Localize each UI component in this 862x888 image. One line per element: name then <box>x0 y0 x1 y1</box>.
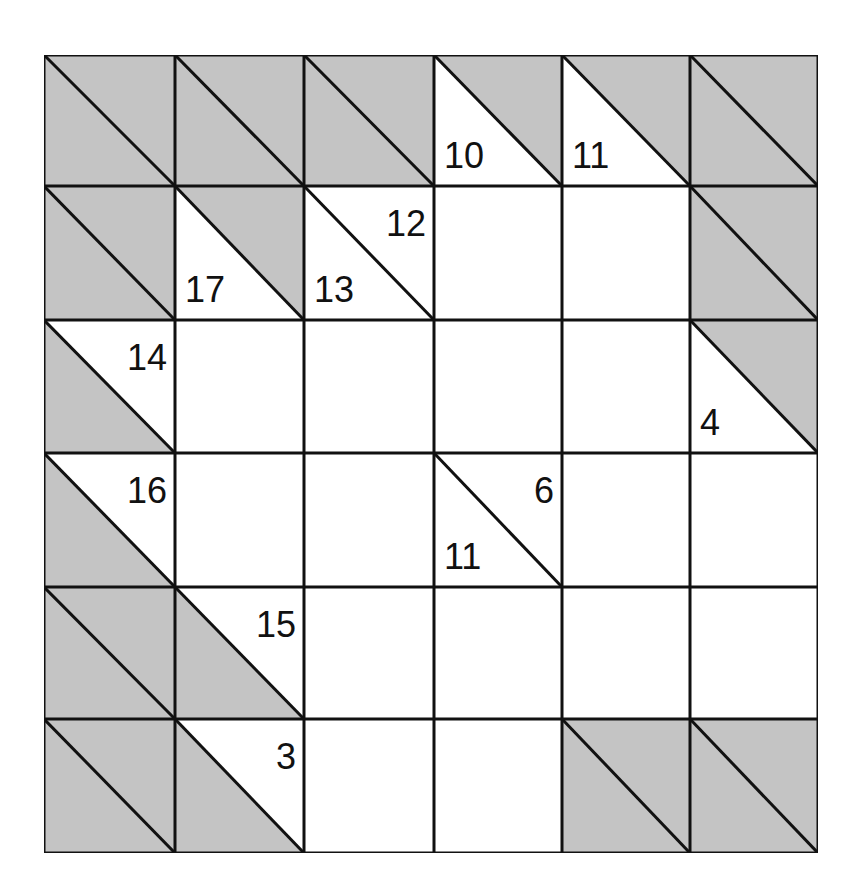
entry-cell[interactable] <box>434 186 562 320</box>
entry-cell[interactable] <box>175 320 304 453</box>
clue-cell: 11 <box>562 55 690 186</box>
down-clue: 4 <box>700 405 720 441</box>
entry-cell[interactable] <box>690 453 818 587</box>
clue-cell: 10 <box>434 55 562 186</box>
entry-cell[interactable] <box>175 453 304 587</box>
blocked-cell <box>690 55 818 186</box>
clue-cell: 16 <box>44 453 175 587</box>
entry-cell[interactable] <box>562 453 690 587</box>
blocked-cell <box>690 719 818 853</box>
clue-cell: 17 <box>175 186 304 320</box>
across-clue: 12 <box>386 206 426 242</box>
clue-cell: 14 <box>44 320 175 453</box>
entry-cell[interactable] <box>304 453 434 587</box>
blocked-cell <box>44 186 175 320</box>
clue-cell: 3 <box>175 719 304 853</box>
across-clue: 14 <box>127 340 167 376</box>
down-clue: 11 <box>572 138 609 174</box>
down-clue: 10 <box>444 138 484 174</box>
entry-cell[interactable] <box>304 719 434 853</box>
entry-cell[interactable] <box>434 587 562 719</box>
clue-cell: 15 <box>175 587 304 719</box>
entry-cell[interactable] <box>562 320 690 453</box>
entry-cell[interactable] <box>562 587 690 719</box>
entry-cell[interactable] <box>304 587 434 719</box>
entry-cell[interactable] <box>690 587 818 719</box>
entry-cell[interactable] <box>434 320 562 453</box>
blocked-cell <box>562 719 690 853</box>
clue-cell: 1312 <box>304 186 434 320</box>
kakuro-board: 101117131214416116153 <box>44 55 818 853</box>
blocked-cell <box>690 186 818 320</box>
down-clue: 11 <box>444 539 481 575</box>
blocked-cell <box>44 719 175 853</box>
blocked-cell <box>304 55 434 186</box>
down-clue: 17 <box>185 272 225 308</box>
entry-cell[interactable] <box>434 719 562 853</box>
down-clue: 13 <box>314 272 354 308</box>
across-clue: 6 <box>534 473 554 509</box>
entry-cell[interactable] <box>562 186 690 320</box>
entry-cell[interactable] <box>304 320 434 453</box>
blocked-cell <box>175 55 304 186</box>
blocked-cell <box>44 587 175 719</box>
clue-cell: 116 <box>434 453 562 587</box>
clue-cell: 4 <box>690 320 818 453</box>
across-clue: 16 <box>127 473 167 509</box>
across-clue: 3 <box>276 739 296 775</box>
blocked-cell <box>44 55 175 186</box>
across-clue: 15 <box>256 607 296 643</box>
